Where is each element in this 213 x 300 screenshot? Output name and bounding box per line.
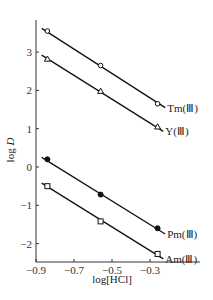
x-tick-label: −0.9 [26, 264, 46, 276]
y-tick-label: −2 [20, 238, 32, 250]
filled-circle-marker [155, 226, 160, 231]
x-axis-title: log[HCl] [92, 273, 132, 285]
circle-marker [45, 29, 50, 34]
y-tick-label: −1 [20, 199, 32, 211]
y-tick-label: 0 [27, 161, 33, 173]
y-tick-label: 2 [27, 84, 33, 96]
filled-circle-marker [45, 157, 50, 162]
x-tick-label: −0.3 [140, 264, 160, 276]
square-marker [45, 184, 50, 189]
filled-circle-marker [98, 192, 103, 197]
y-tick-label: 3 [27, 46, 33, 58]
chart: −2−10123−0.9−0.7−0.5−0.3 Tm(Ⅲ)Y(Ⅲ)Pm(Ⅲ)A… [0, 0, 213, 300]
circle-marker [98, 63, 103, 68]
fit-line [42, 28, 166, 107]
y-tick-label: 1 [27, 123, 33, 135]
x-tick-label: −0.7 [64, 264, 84, 276]
series-label: Tm(Ⅲ) [167, 102, 198, 115]
series-label: Y(Ⅲ) [165, 125, 189, 138]
y-axis-title: log D [4, 138, 16, 163]
data-markers [44, 29, 160, 257]
square-marker [155, 251, 160, 256]
circle-marker [155, 102, 160, 107]
series-labels: Tm(Ⅲ)Y(Ⅲ)Pm(Ⅲ)Am(Ⅲ) [165, 102, 198, 266]
series-label: Pm(Ⅲ) [167, 228, 197, 241]
series-label: Am(Ⅲ) [165, 253, 197, 266]
square-marker [98, 219, 103, 224]
